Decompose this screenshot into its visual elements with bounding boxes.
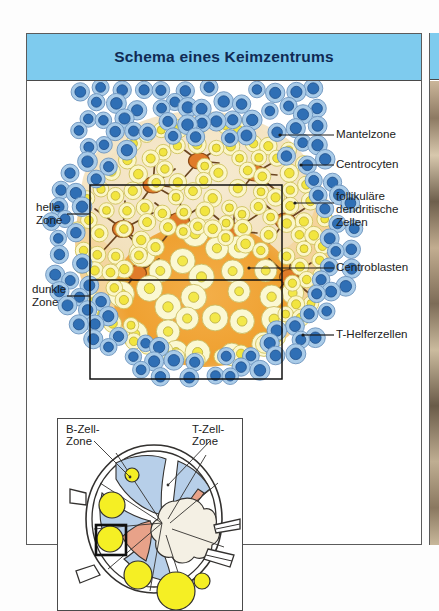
label-dunkle-zone-line1: dunkle <box>32 283 66 296</box>
page-root: Schema eines Keimzentrums <box>0 0 439 611</box>
label-follikulaere: follikuläre <box>336 190 385 203</box>
label-dendritische: dendritische <box>336 203 399 216</box>
label-t-helferzellen: T-Helferzellen <box>336 328 408 341</box>
label-b-zell-zone-line2: Zone <box>66 435 92 447</box>
lymph-node-svg <box>58 419 242 610</box>
label-t-zell-zone-line2: Zone <box>192 435 218 447</box>
label-b-zell-zone-line1: B-Zell- <box>66 423 100 435</box>
label-centroblasten: Centroblasten <box>336 261 408 274</box>
label-mantelzone: Mantelzone <box>336 128 396 141</box>
label-zellen: Zellen <box>336 216 368 229</box>
figure-title-bar: Schema eines Keimzentrums <box>27 34 421 81</box>
label-t-zell-zone-line1: T-Zell- <box>192 423 224 435</box>
label-helle-zone-line1: helle <box>36 201 61 214</box>
label-centrocyten: Centrocyten <box>336 158 399 171</box>
page-title: Schema eines Keimzentrums <box>114 48 334 66</box>
adjacent-figure-sliver <box>429 33 439 545</box>
lymph-node-inset-panel: B-Zell- Zone T-Zell- Zone <box>57 418 243 611</box>
adjacent-figure-title-bar <box>430 33 439 80</box>
label-helle-zone-line2: Zone <box>36 214 62 227</box>
adjacent-figure-photo <box>430 81 439 545</box>
label-dunkle-zone-line2: Zone <box>32 296 58 309</box>
